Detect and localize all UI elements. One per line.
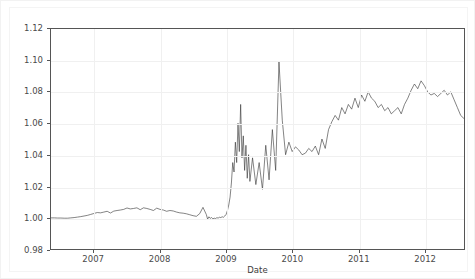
gridline-vertical [161,29,162,249]
y-tick-label: 1.06 [24,118,43,128]
gridline-vertical [293,29,294,249]
gridline-horizontal [51,188,464,189]
gridline-vertical [426,29,427,249]
gridline-horizontal [51,124,464,125]
gridline-vertical [94,29,95,249]
gridline-horizontal [51,219,464,220]
y-tick-mark [47,28,50,29]
x-tick-mark [359,250,360,253]
y-tick-label: 1.04 [24,150,43,160]
y-tick-mark [47,155,50,156]
x-tick-mark [425,250,426,253]
x-tick-label: 2007 [82,254,104,264]
series-line [51,29,464,249]
y-tick-label: 1.08 [24,86,43,96]
y-tick-mark [47,218,50,219]
x-tick-mark [93,250,94,253]
gridline-horizontal [51,92,464,93]
y-tick-label: 1.00 [24,213,43,223]
x-tick-label: 2012 [414,254,436,264]
y-tick-mark [47,123,50,124]
x-tick-label: 2011 [348,254,370,264]
y-tick-label: 1.12 [24,23,43,33]
x-axis-label: Date [50,265,465,275]
y-tick-mark [47,250,50,251]
x-tick-label: 2010 [282,254,304,264]
y-tick-label: 1.02 [24,182,43,192]
y-tick-mark [47,187,50,188]
y-tick-mark [47,60,50,61]
gridline-horizontal [51,156,464,157]
y-tick-label: 1.10 [24,55,43,65]
x-tick-mark [226,250,227,253]
figure-inner-frame: 0.981.001.021.041.061.081.101.12 2007200… [9,7,468,272]
x-tick-mark [292,250,293,253]
gridline-vertical [360,29,361,249]
gridline-horizontal [51,61,464,62]
chart-figure: 0.981.001.021.041.061.081.101.12 2007200… [0,0,475,279]
x-tick-label: 2008 [149,254,171,264]
y-tick-mark [47,91,50,92]
y-tick-label: 0.98 [24,245,43,255]
x-tick-mark [160,250,161,253]
plot-area [50,28,465,250]
x-tick-label: 2009 [215,254,237,264]
gridline-vertical [227,29,228,249]
